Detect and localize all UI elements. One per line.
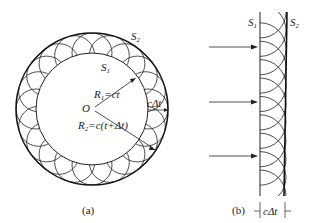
caption-b: (b) [232, 204, 245, 217]
label-gap-b: cΔt [263, 205, 278, 217]
label-gap-a: cΔt [147, 97, 162, 109]
label-s1-b: S1 [248, 16, 257, 30]
arrowhead-icon [251, 100, 258, 105]
arrowhead-icon [251, 45, 258, 50]
wavefront-s2 [16, 33, 168, 185]
label-s2-b: S2 [290, 16, 300, 30]
label-s1: S1 [101, 61, 110, 75]
label-r2: R2=c(t+Δt) [77, 119, 128, 133]
spherical-wave-figure: S2 S1 R1=ct O R2=c(t+Δt) cΔt (a) [16, 30, 168, 217]
label-s2: S2 [131, 30, 141, 44]
arrowhead-icon [251, 154, 258, 159]
plane-wave-figure: S1 S2 cΔt (b) [209, 0, 300, 222]
radius-r2-arrowhead [149, 146, 156, 150]
huygens-diagram: S2 S1 R1=ct O R2=c(t+Δt) cΔt (a) S1 S2 c… [0, 0, 311, 223]
caption-a: (a) [82, 204, 95, 217]
label-center-o: O [82, 102, 90, 114]
label-r1: R1=ct [93, 88, 121, 102]
radius-r1-arrowhead [130, 78, 136, 83]
wavefront-s1 [36, 53, 148, 165]
incident-arrows [209, 45, 258, 159]
